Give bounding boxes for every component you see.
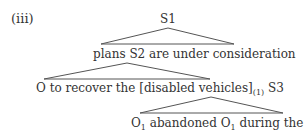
example-label: (iii) xyxy=(11,12,34,26)
s3-pre: O to recover the [disabled vehicles] xyxy=(36,81,253,95)
s3-post: S3 xyxy=(264,81,284,95)
leaf-o1: O xyxy=(131,116,141,130)
node-leaf-text: O1 abandoned O1 during the night xyxy=(131,116,304,130)
triangle-s2 xyxy=(44,63,210,79)
triangle-s1 xyxy=(101,28,234,44)
leaf-mid: abandoned O xyxy=(146,116,231,130)
leaf-post: during the night xyxy=(236,116,304,130)
triangle-s3 xyxy=(140,97,283,113)
node-s1: S1 xyxy=(160,12,176,26)
node-s2-text: plans S2 are under consideration xyxy=(93,47,296,61)
s3-index: (1) xyxy=(253,88,264,97)
node-s3-text: O to recover the [disabled vehicles](1) … xyxy=(36,81,284,95)
